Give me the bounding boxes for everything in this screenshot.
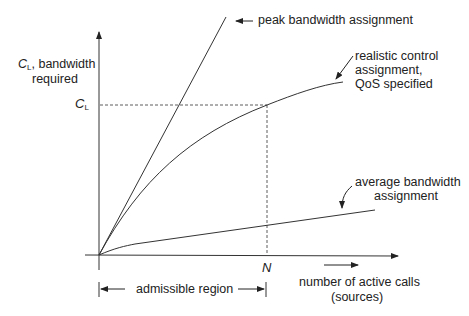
x-axis <box>85 255 398 256</box>
admissible-region-label: admissible region <box>136 282 233 296</box>
realistic-control-curve <box>99 82 343 255</box>
realistic-label-line3: QoS specified <box>355 77 433 91</box>
cl-subscript: L <box>84 103 88 112</box>
peak-bandwidth-line <box>99 17 226 255</box>
cl-symbol: C <box>75 96 84 111</box>
realistic-label-line2: assignment, <box>355 63 422 77</box>
average-bandwidth-line <box>99 210 375 255</box>
realistic-label-arrow <box>336 56 353 79</box>
x-axis-label-line2: (sources) <box>331 290 383 304</box>
average-label-line2: assignment <box>374 189 438 203</box>
y-axis-symbol: C <box>18 57 27 71</box>
average-label-arrow <box>342 186 352 208</box>
diagram-canvas <box>0 0 469 316</box>
x-axis-label-line1: number of active calls <box>299 275 420 289</box>
cl-marker: CL <box>75 97 89 115</box>
y-axis-label-line2: required <box>32 72 78 86</box>
y-axis-text-1: , bandwidth <box>31 57 95 71</box>
peak-label: peak bandwidth assignment <box>258 13 413 27</box>
n-marker: N <box>262 261 271 275</box>
realistic-label-line1: realistic control <box>355 49 438 63</box>
average-label-line1: average bandwidth <box>355 175 461 189</box>
